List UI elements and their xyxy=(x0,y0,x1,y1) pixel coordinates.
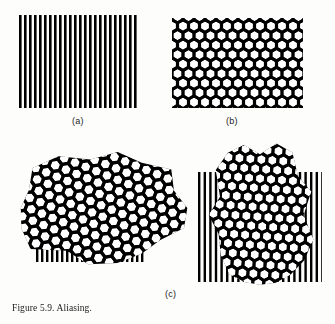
panel-a-grating xyxy=(19,15,137,108)
figure-page: (a) (b) (c) Figure 5.9. Aliasing. xyxy=(0,0,335,324)
figure-caption: Figure 5.9. Aliasing. xyxy=(12,303,92,313)
panel-a-label: (a) xyxy=(72,116,84,126)
panel-c-right-moire xyxy=(196,142,322,290)
panel-c-label: (c) xyxy=(165,289,176,299)
panel-c-left-moire xyxy=(14,148,194,280)
panel-b-label: (b) xyxy=(226,116,238,126)
panel-b-hex-mesh xyxy=(172,18,303,108)
